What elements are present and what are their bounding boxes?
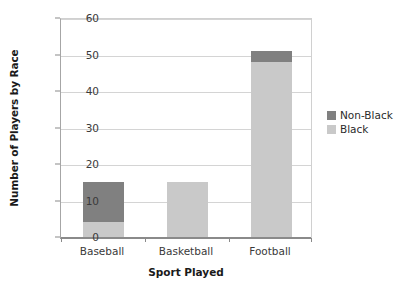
y-axis-tick-label: 20 bbox=[59, 158, 99, 170]
bar-segment-non-black bbox=[251, 51, 292, 62]
y-axis-tick-mark bbox=[55, 18, 60, 19]
y-axis-tick-mark bbox=[55, 127, 60, 128]
legend-label: Non-Black bbox=[340, 110, 393, 121]
legend-item-black[interactable]: Black bbox=[327, 124, 393, 135]
x-axis-separator bbox=[311, 238, 312, 242]
y-axis-tick-mark bbox=[55, 237, 60, 238]
legend-swatch-icon bbox=[327, 111, 336, 120]
x-axis-separator bbox=[145, 238, 146, 242]
x-axis-separator bbox=[229, 238, 230, 242]
chart-legend: Non-BlackBlack bbox=[327, 110, 393, 135]
x-axis-label-football: Football bbox=[249, 245, 291, 257]
y-axis-tick-label: 0 bbox=[59, 231, 99, 243]
y-axis-tick-label: 50 bbox=[59, 49, 99, 61]
bar-segment-black bbox=[167, 182, 208, 237]
legend-item-non-black[interactable]: Non-Black bbox=[327, 110, 393, 121]
bar-football bbox=[251, 51, 292, 237]
x-axis-label-baseball: Baseball bbox=[80, 245, 125, 257]
y-axis-tick-mark bbox=[55, 54, 60, 55]
x-axis-title: Sport Played bbox=[60, 266, 312, 278]
y-axis-tick-label: 60 bbox=[59, 12, 99, 24]
y-axis-tick-label: 40 bbox=[59, 85, 99, 97]
bar-segment-black bbox=[251, 62, 292, 237]
y-axis-tick-mark bbox=[55, 91, 60, 92]
x-axis-label-basketball: Basketball bbox=[159, 245, 213, 257]
bar-basketball bbox=[167, 182, 208, 237]
y-axis-tick-label: 10 bbox=[59, 195, 99, 207]
bar-baseball bbox=[83, 182, 124, 237]
y-axis-tick-mark bbox=[55, 200, 60, 201]
legend-swatch-icon bbox=[327, 125, 336, 134]
chart-figure: Number of Players by Race Sport Played N… bbox=[0, 0, 414, 300]
y-axis-tick-label: 30 bbox=[59, 122, 99, 134]
legend-label: Black bbox=[340, 124, 368, 135]
y-axis-tick-mark bbox=[55, 164, 60, 165]
y-axis-title: Number of Players by Race bbox=[8, 20, 20, 236]
